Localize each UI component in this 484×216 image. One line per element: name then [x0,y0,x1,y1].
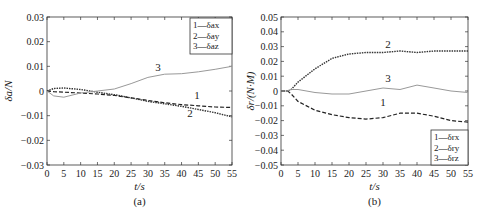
y-tick-label: −0.01 [21,110,44,121]
panel-label: (a) [133,195,146,208]
y-tick-label: 0 [273,86,278,97]
x-tick-label: 40 [177,168,187,179]
y-tick-label: 0.03 [27,12,45,23]
legend-entry: 2—δay [193,31,220,41]
x-tick-label: 15 [92,168,102,179]
x-tick-label: 20 [344,168,354,179]
legend-entry: 3—δrz [434,153,459,163]
x-tick-label: 50 [446,168,456,179]
x-tick-label: 15 [327,168,337,179]
legend: 1—δrx2—δry3—δrz [431,130,468,165]
y-tick-label: 0.01 [261,71,279,82]
x-tick-label: 35 [395,168,405,179]
legend-entry: 2—δry [434,143,460,153]
y-tick-label: −0.04 [255,145,278,156]
legend-entry: 3—δaz [193,41,219,51]
x-tick-label: 40 [412,168,422,179]
series-line-2 [281,51,468,91]
y-tick-label: 0.03 [261,41,279,52]
y-tick-label: −0.01 [255,100,278,111]
y-tick-label: 0.02 [27,36,45,47]
x-tick-label: 20 [109,168,119,179]
figure: 05101520253035404550550.030.020.010−0.01… [0,0,484,216]
y-tick-label: 0.02 [261,56,279,67]
x-tick-label: 10 [76,168,86,179]
panel-label: (b) [368,195,381,208]
x-tick-label: 30 [378,168,388,179]
x-tick-label: 10 [310,168,320,179]
curve-label: 2 [187,107,193,119]
curve-label: 2 [385,38,391,50]
y-axis-label: δa/N [2,80,14,102]
chart-panel-a: 05101520253035404550550.030.020.010−0.01… [2,12,237,209]
y-tick-label: 0.05 [261,12,279,23]
y-tick-label: −0.03 [21,160,44,171]
x-tick-label: 0 [279,168,284,179]
curve-label: 1 [194,89,200,101]
curve-label: 1 [380,96,386,108]
x-tick-label: 55 [227,168,237,179]
x-tick-label: 35 [160,168,170,179]
x-tick-label: 0 [45,168,50,179]
y-tick-label: 0 [39,86,44,97]
legend-entry: 1—δax [193,20,220,30]
y-tick-label: −0.02 [255,115,278,126]
series-line-1 [281,91,468,122]
x-tick-label: 5 [61,168,66,179]
y-tick-label: −0.02 [21,135,44,146]
x-tick-label: 50 [210,168,220,179]
y-tick-label: −0.03 [255,130,278,141]
x-tick-label: 45 [429,168,439,179]
series-line-3 [281,85,468,94]
x-axis-label: t/s [134,180,144,192]
x-tick-label: 25 [361,168,371,179]
chart-panel-b: 05101520253035404550550.050.040.030.020.… [244,12,473,209]
legend: 1—δax2—δay3—δaz [190,18,232,54]
x-tick-label: 55 [463,168,473,179]
x-tick-label: 25 [126,168,136,179]
y-axis-label: δr/(N·M) [244,71,257,110]
y-tick-label: −0.05 [255,160,278,171]
curve-label: 3 [155,61,161,73]
y-tick-label: 0.04 [261,26,279,37]
x-axis-label: t/s [369,180,379,192]
x-tick-label: 30 [143,168,153,179]
x-tick-label: 5 [296,168,301,179]
curve-label: 3 [385,72,391,84]
y-tick-label: 0.01 [27,61,45,72]
legend-entry: 1—δrx [434,132,460,142]
x-tick-label: 45 [193,168,203,179]
